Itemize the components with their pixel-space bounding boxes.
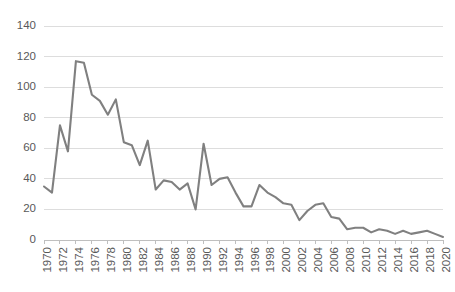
x-tick-label: 2002 [296, 247, 308, 273]
x-tick-label: 1986 [169, 247, 181, 273]
x-tick-label: 1990 [201, 247, 213, 273]
x-tick-label: 1982 [137, 247, 149, 273]
chart-canvas: 020406080100120140 197019721974197619781… [0, 0, 455, 292]
x-tick-label: 2014 [392, 246, 404, 272]
x-tick-label: 2018 [424, 247, 436, 273]
y-tick-label: 140 [17, 19, 36, 31]
x-tick-label: 1972 [57, 247, 69, 273]
line-chart: 020406080100120140 197019721974197619781… [0, 0, 455, 292]
x-tick-label: 1974 [73, 246, 85, 272]
y-tick-label: 120 [17, 50, 36, 62]
x-tick-label: 2010 [360, 247, 372, 273]
x-tick-label: 1970 [41, 247, 53, 273]
x-tick-label: 2016 [408, 247, 420, 273]
x-tick-label: 1994 [233, 246, 245, 272]
x-tick-label: 1998 [264, 247, 276, 273]
y-tick-label: 40 [23, 172, 36, 184]
x-tick-label: 2004 [312, 246, 324, 272]
x-tick-label: 2008 [344, 247, 356, 273]
x-axis [44, 240, 443, 244]
x-tick-label: 1992 [217, 247, 229, 273]
y-tick-label: 60 [23, 141, 36, 153]
x-tick-label: 1980 [121, 247, 133, 273]
x-tick-label: 1976 [89, 247, 101, 273]
y-tick-label: 100 [17, 80, 36, 92]
y-tick-label: 80 [23, 111, 36, 123]
x-tick-label: 1988 [185, 247, 197, 273]
x-axis-tick-labels: 1970197219741976197819801982198419861988… [41, 246, 452, 272]
y-axis-tick-labels: 020406080100120140 [17, 19, 36, 245]
x-tick-label: 2000 [280, 247, 292, 273]
x-tick-label: 1984 [153, 246, 165, 272]
y-tick-label: 0 [30, 233, 36, 245]
y-tick-label: 20 [23, 202, 36, 214]
gridlines [44, 26, 443, 240]
x-tick-label: 2012 [376, 247, 388, 273]
x-tick-label: 1996 [249, 247, 261, 273]
x-tick-label: 1978 [105, 247, 117, 273]
x-tick-label: 2020 [440, 247, 452, 273]
x-tick-label: 2006 [328, 247, 340, 273]
